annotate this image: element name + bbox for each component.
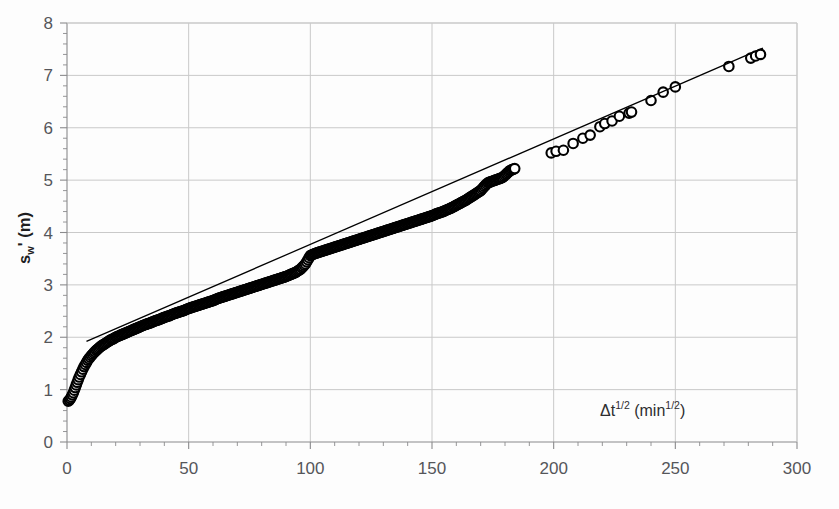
y-tick-label: 8 — [44, 14, 53, 33]
x-tick-label: 200 — [539, 459, 567, 478]
data-point-marker — [615, 111, 625, 121]
y-tick-label: 1 — [44, 381, 53, 400]
x-tick-label: 150 — [418, 459, 446, 478]
x-tick-label: 300 — [783, 459, 811, 478]
data-point-marker — [568, 139, 578, 149]
figure-container: 050100150200250300 012345678 sw' (m) Δt1… — [0, 0, 839, 509]
data-point-marker — [627, 107, 637, 117]
scatter-chart: 050100150200250300 012345678 sw' (m) Δt1… — [0, 0, 839, 509]
svg-text:sw' (m): sw' (m) — [15, 212, 36, 264]
x-tick-label: 250 — [661, 459, 689, 478]
x-tick-label: 0 — [62, 459, 71, 478]
data-point-marker — [585, 130, 595, 140]
y-tick-label: 0 — [44, 433, 53, 452]
y-tick-label: 7 — [44, 66, 53, 85]
x-tick-label: 50 — [179, 459, 198, 478]
data-point-marker — [559, 146, 569, 156]
y-tick-label: 5 — [44, 171, 53, 190]
y-axis-tick-labels: 012345678 — [44, 14, 53, 452]
y-tick-label: 3 — [44, 276, 53, 295]
y-tick-label: 6 — [44, 119, 53, 138]
x-tick-label: 100 — [296, 459, 324, 478]
data-point-marker — [510, 164, 520, 174]
y-tick-label: 4 — [44, 224, 53, 243]
plot-background — [0, 0, 839, 509]
y-axis-title: sw' (m) — [15, 212, 36, 264]
y-tick-label: 2 — [44, 328, 53, 347]
